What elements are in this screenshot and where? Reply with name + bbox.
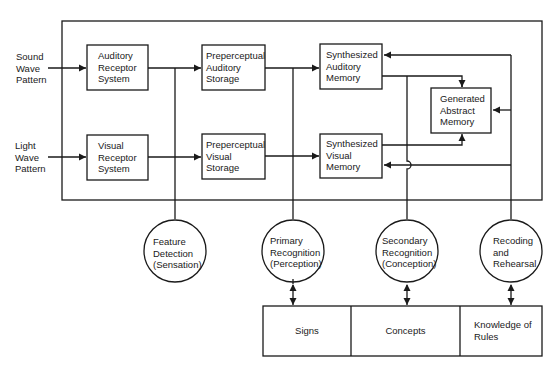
label-line: Pattern	[16, 74, 47, 86]
label-line: Recoding	[493, 235, 536, 247]
synthesized-visual-label: Synthesized Visual Memory	[326, 138, 378, 173]
diagram-canvas	[0, 0, 560, 372]
light-wave-label: Light Wave Pattern	[15, 140, 46, 175]
label-line: Knowledge of	[474, 319, 532, 331]
label-line: Synthesized	[326, 138, 378, 150]
label-line: Rehearsal	[493, 258, 536, 270]
label-line: Memory	[326, 72, 378, 84]
label-line: Light	[15, 140, 46, 152]
label-line: Auditory	[98, 50, 137, 62]
label-line: Generated	[440, 93, 485, 105]
label-line: Sound	[16, 51, 47, 63]
label-line: Recognition	[270, 247, 322, 259]
label-line: Memory	[326, 161, 378, 173]
label-line: Storage	[206, 73, 265, 85]
label-line: (Sensation)	[153, 259, 202, 271]
label-line: Preperceptual	[206, 50, 265, 62]
label-line: Abstract	[440, 105, 485, 117]
label-line: Wave	[16, 63, 47, 75]
sound-wave-label: Sound Wave Pattern	[16, 51, 47, 86]
label-line: Signs	[263, 325, 351, 337]
label-line: Detection	[153, 248, 202, 260]
label-line: and	[493, 247, 536, 259]
generated-abstract-label: Generated Abstract Memory	[440, 93, 485, 128]
label-line: Visual	[206, 151, 265, 163]
label-line: Auditory	[206, 62, 265, 74]
preperceptual-visual-label: Preperceptual Visual Storage	[206, 139, 265, 174]
primary-recognition-label: Primary Recognition (Perception)	[270, 235, 322, 270]
label-line: Wave	[15, 152, 46, 164]
label-line: Concepts	[351, 325, 460, 337]
label-line: Feature	[153, 236, 202, 248]
label-line: Storage	[206, 162, 265, 174]
preperceptual-auditory-label: Preperceptual Auditory Storage	[206, 50, 265, 85]
label-line: Receptor	[98, 62, 137, 74]
label-line: Recognition	[382, 247, 436, 259]
label-line: (Conception)	[382, 258, 436, 270]
auditory-receptor-label: Auditory Receptor System	[98, 50, 137, 85]
label-line: Memory	[440, 116, 485, 128]
secondary-recognition-label: Secondary Recognition (Conception)	[382, 235, 436, 270]
label-line: System	[98, 163, 137, 175]
rules-label: Knowledge of Rules	[474, 319, 532, 342]
label-line: Pattern	[15, 163, 46, 175]
concepts-label: Concepts	[351, 325, 460, 337]
label-line: Visual	[98, 140, 137, 152]
feature-detection-label: Feature Detection (Sensation)	[153, 236, 202, 271]
synthesized-auditory-label: Synthesized Auditory Memory	[326, 49, 378, 84]
label-line: System	[98, 73, 137, 85]
label-line: Preperceptual	[206, 139, 265, 151]
label-line: Synthesized	[326, 49, 378, 61]
signs-label: Signs	[263, 325, 351, 337]
label-line: Auditory	[326, 61, 378, 73]
recoding-label: Recoding and Rehearsal	[493, 235, 536, 270]
label-line: Rules	[474, 331, 532, 343]
label-line: Secondary	[382, 235, 436, 247]
label-line: (Perception)	[270, 258, 322, 270]
label-line: Primary	[270, 235, 322, 247]
visual-receptor-label: Visual Receptor System	[98, 140, 137, 175]
label-line: Visual	[326, 150, 378, 162]
label-line: Receptor	[98, 152, 137, 164]
